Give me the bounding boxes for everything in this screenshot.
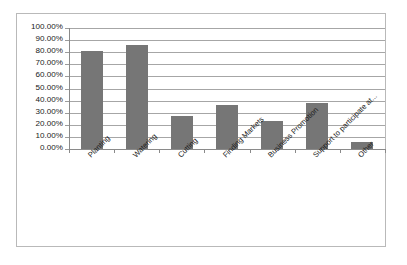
chart-frame: 0.00%10.00%20.00%30.00%40.00%50.00%60.00… xyxy=(16,13,386,247)
plot-area: 0.00%10.00%20.00%30.00%40.00%50.00%60.00… xyxy=(17,14,387,248)
y-tick-label: 70.00% xyxy=(17,59,63,67)
y-axis: 0.00%10.00%20.00%30.00%40.00%50.00%60.00… xyxy=(17,14,65,150)
bar[interactable] xyxy=(81,51,103,149)
y-tick-label: 40.00% xyxy=(17,96,63,104)
x-tick-mark xyxy=(295,149,296,153)
x-tick-mark xyxy=(114,149,115,153)
y-tick-label: 90.00% xyxy=(17,35,63,43)
y-tick-label: 80.00% xyxy=(17,47,63,55)
y-tick-label: 0.00% xyxy=(17,144,63,152)
y-tick-label: 50.00% xyxy=(17,84,63,92)
bar[interactable] xyxy=(126,45,148,149)
x-tick-mark xyxy=(69,149,70,153)
y-tick-label: 100.00% xyxy=(17,23,63,31)
x-tick-mark xyxy=(159,149,160,153)
bar-slot xyxy=(69,28,114,149)
y-tick-label: 30.00% xyxy=(17,108,63,116)
x-axis: PlantingWateringCuttingFinding MarketsBu… xyxy=(17,153,387,248)
y-tick-label: 60.00% xyxy=(17,71,63,79)
y-tick-label: 10.00% xyxy=(17,132,63,140)
x-tick-mark xyxy=(204,149,205,153)
y-tick-label: 20.00% xyxy=(17,120,63,128)
bar-slot xyxy=(114,28,159,149)
bar-slot xyxy=(159,28,204,149)
x-tick-mark xyxy=(250,149,251,153)
x-tick-mark xyxy=(385,149,386,153)
bar-slot xyxy=(340,28,385,149)
x-tick-mark xyxy=(340,149,341,153)
